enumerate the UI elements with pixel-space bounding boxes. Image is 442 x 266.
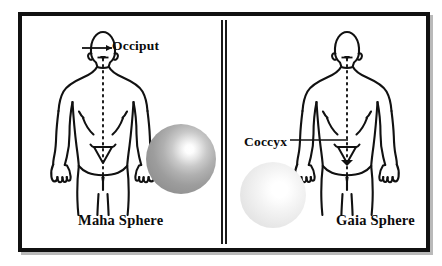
caption-gaia-sphere: Gaia Sphere	[336, 212, 415, 229]
gaia-sphere	[240, 162, 306, 228]
annotation-label-coccyx: Coccyx	[244, 134, 287, 150]
divider-rule-left	[221, 20, 223, 244]
frame-inner: Occiput Maha Sphere	[22, 16, 426, 248]
figure-root: Occiput Maha Sphere	[0, 0, 442, 266]
image-frame: Occiput Maha Sphere	[18, 12, 430, 252]
panel-maha-sphere: Occiput Maha Sphere	[22, 16, 220, 248]
maha-sphere	[146, 124, 216, 194]
caption-maha-sphere: Maha Sphere	[78, 212, 163, 229]
coccyx-leader-line	[290, 134, 354, 156]
panel-divider	[220, 20, 227, 244]
panel-gaia-sphere: Coccyx Gaia Sphere	[228, 16, 426, 248]
divider-rule-right	[225, 20, 227, 244]
annotation-label-occiput: Occiput	[112, 38, 159, 54]
